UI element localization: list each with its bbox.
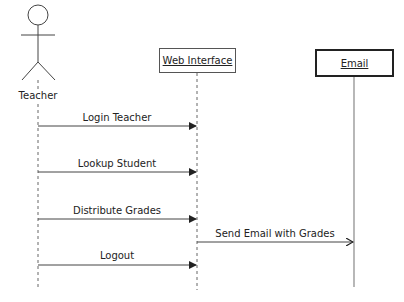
message-label-login: Login Teacher (83, 112, 152, 123)
teacher-actor-label: Teacher (18, 90, 59, 101)
web-interface-box: Web Interface (159, 48, 236, 73)
message-label-lookup: Lookup Student (78, 158, 156, 169)
message-label-send-email: Send Email with Grades (215, 228, 334, 239)
web-interface-label: Web Interface (163, 55, 233, 66)
message-label-logout: Logout (100, 250, 134, 261)
sequence-diagram-canvas (0, 0, 404, 302)
email-label: Email (341, 58, 369, 69)
email-box: Email (315, 49, 394, 77)
message-label-distribute: Distribute Grades (73, 205, 161, 216)
teacher-actor-icon (21, 5, 55, 80)
